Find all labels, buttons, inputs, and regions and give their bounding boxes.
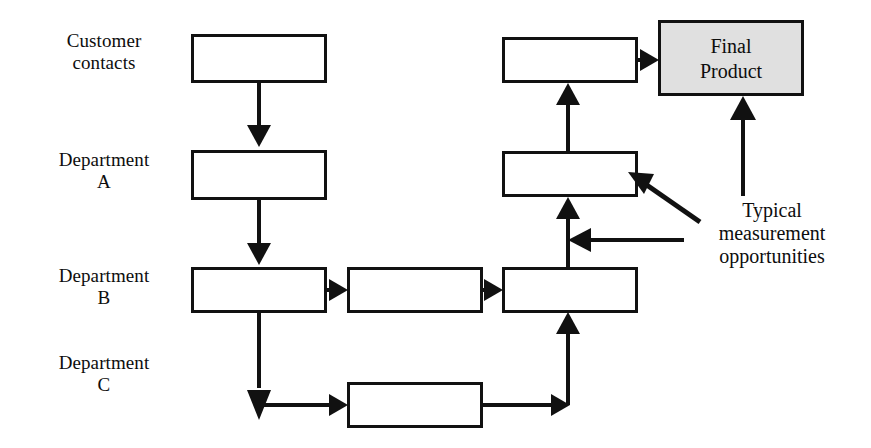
connector-dept-a-to-dept-b <box>247 200 271 265</box>
process-box-dept-b-right[interactable] <box>502 267 638 313</box>
connector-dept-b-right-to-dept-a-right <box>556 197 580 267</box>
connector-dept-b-middle-to-right <box>483 279 503 301</box>
process-box-dept-a-right[interactable] <box>502 151 638 197</box>
process-box-dept-c-middle[interactable] <box>347 382 483 428</box>
callout-pointer-dept-a-right <box>628 172 700 222</box>
row-label-department-b: Department B <box>30 265 178 309</box>
process-box-customer-contacts-right[interactable] <box>502 37 638 83</box>
process-box-final-product[interactable]: Final Product <box>658 20 804 96</box>
process-box-customer-contacts[interactable] <box>191 34 327 83</box>
row-label-customer-contacts: Customer contacts <box>34 30 174 74</box>
process-box-dept-a-left[interactable] <box>191 150 327 200</box>
annotation-typical-measurement-opportunities: Typical measurement opportunities <box>692 199 852 268</box>
connector-customer-to-dept-a <box>247 83 271 147</box>
process-box-dept-b-middle[interactable] <box>347 267 483 313</box>
connector-dept-c-to-dept-b-right <box>483 312 580 416</box>
diagram-canvas: Customer contacts Department A Departmen… <box>0 0 871 448</box>
process-box-final-product-label: Final Product <box>661 23 801 84</box>
process-box-dept-b-left[interactable] <box>191 267 327 313</box>
connector-dept-a-right-to-top-right <box>556 83 580 151</box>
row-label-department-c: Department C <box>30 352 178 396</box>
callout-pointer-dept-c-riser <box>568 228 684 252</box>
connector-top-right-to-final-product <box>638 49 659 71</box>
callout-pointer-final-product <box>730 96 756 196</box>
row-label-department-a: Department A <box>30 149 178 193</box>
connector-dept-b-left-to-middle <box>327 279 348 301</box>
connector-dept-b-to-dept-c <box>247 313 348 420</box>
